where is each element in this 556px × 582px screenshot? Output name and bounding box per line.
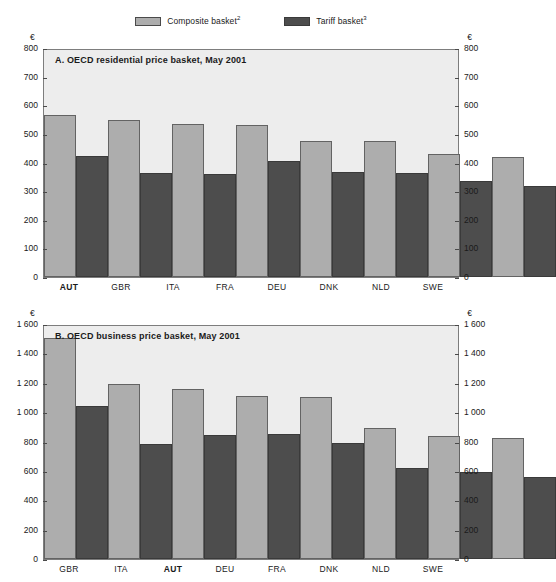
bar-aut-composite [44,115,76,277]
y-tick-label: 1 200 [17,378,38,388]
y-tick-label: 0 [33,554,38,564]
tick-mark [455,106,459,107]
y-axis-unit-left: € [30,308,35,318]
chart-panel-b: € € B. OECD business price basket, May 2… [0,308,502,582]
tick-mark [43,192,47,193]
x-axis-label-nld: NLD [355,564,407,574]
bar-aut-tariff [76,156,108,277]
legend-text: Composite basket [167,16,237,26]
tick-mark [43,560,47,561]
x-axis-label-nld: NLD [355,282,407,292]
bar-ita-composite [108,384,140,559]
y-tick-label: 1 600 [17,319,38,329]
bar-group-gbr [44,326,108,559]
bar-dnk-composite [364,141,396,277]
bar-group-aut [44,50,108,277]
x-axis-label-gbr: GBR [95,282,147,292]
bar-deu-composite [300,141,332,277]
y-tick-label: 200 [464,215,478,225]
y-tick-label: 1 600 [464,319,485,329]
tick-mark [455,78,459,79]
y-tick-label: 1 400 [17,348,38,358]
y-tick-label: 1 400 [464,348,485,358]
tick-mark [43,221,47,222]
bar-fra-tariff [268,161,300,277]
tick-mark [455,354,459,355]
bar-group-ita [172,50,236,277]
plot-wrapper-a: A. OECD residential price basket, May 20… [43,49,459,278]
bar-dnk-tariff [396,173,428,277]
x-axis-label-aut: AUT [43,282,95,292]
bar-swe-tariff [524,186,556,277]
y-axis-unit-right: € [467,32,472,42]
y-tick-label: 600 [24,466,38,476]
y-tick-label: 300 [464,186,478,196]
x-axis-label-gbr: GBR [43,564,95,574]
y-tick-label: 300 [24,186,38,196]
bar-deu-tariff [268,434,300,559]
tick-mark [43,413,47,414]
bar-aut-composite [172,389,204,559]
bar-swe-tariff [524,477,556,559]
y-tick-label: 100 [24,243,38,253]
y-tick-label: 1 000 [464,407,485,417]
bar-swe-composite [492,438,524,559]
legend-entry-tariff-basket: Tariff basket3 [284,16,366,26]
legend-swatch-light-icon [135,17,161,26]
tick-mark [455,192,459,193]
y-axis-unit-right: € [467,308,472,318]
bar-swe-composite [492,157,524,277]
y-tick-label: 1 200 [464,378,485,388]
bar-dnk-composite [364,428,396,559]
bar-group-nld [428,50,492,277]
bar-gbr-tariff [140,173,172,277]
y-tick-label: 0 [33,272,38,282]
x-axis-label-dnk: DNK [303,564,355,574]
y-tick-label: 400 [24,495,38,505]
tick-mark [43,164,47,165]
y-tick-label: 600 [464,100,478,110]
x-axis-label-deu: DEU [199,564,251,574]
legend-text: Tariff basket [316,16,363,26]
y-tick-label: 600 [24,100,38,110]
bar-group-deu [236,326,300,559]
y-tick-label: 400 [464,495,478,505]
tick-mark [455,443,459,444]
tick-mark [455,249,459,250]
x-axis-labels-a: AUTGBRITAFRADEUDNKNLDSWE [43,282,459,292]
tick-mark [455,49,459,50]
tick-mark [455,531,459,532]
y-tick-label: 400 [24,158,38,168]
tick-mark [43,49,47,50]
bar-group-container-a [44,50,458,277]
x-axis-label-fra: FRA [199,282,251,292]
chart-legend: Composite basket2 Tariff basket3 [0,14,502,28]
y-tick-label: 0 [464,272,469,282]
tick-mark [43,325,47,326]
legend-label-composite-basket: Composite basket2 [167,16,240,26]
bar-group-deu [300,50,364,277]
bar-group-swe [492,326,556,559]
bar-group-ita [108,326,172,559]
bar-deu-tariff [332,172,364,277]
y-tick-label: 600 [464,466,478,476]
bar-gbr-composite [44,338,76,559]
tick-mark [43,135,47,136]
tick-mark [43,354,47,355]
tick-mark [455,384,459,385]
bar-group-dnk [364,50,428,277]
bar-group-dnk [364,326,428,559]
tick-mark [455,135,459,136]
tick-mark [43,443,47,444]
y-tick-label: 200 [464,525,478,535]
tick-mark [43,384,47,385]
x-axis-label-aut: AUT [147,564,199,574]
y-tick-label: 200 [24,525,38,535]
y-tick-label: 1 000 [17,407,38,417]
tick-mark [455,325,459,326]
tick-mark [455,278,459,279]
y-tick-label: 0 [464,554,469,564]
legend-swatch-dark-icon [284,17,310,26]
bar-nld-composite [428,436,460,559]
bar-ita-tariff [204,174,236,277]
